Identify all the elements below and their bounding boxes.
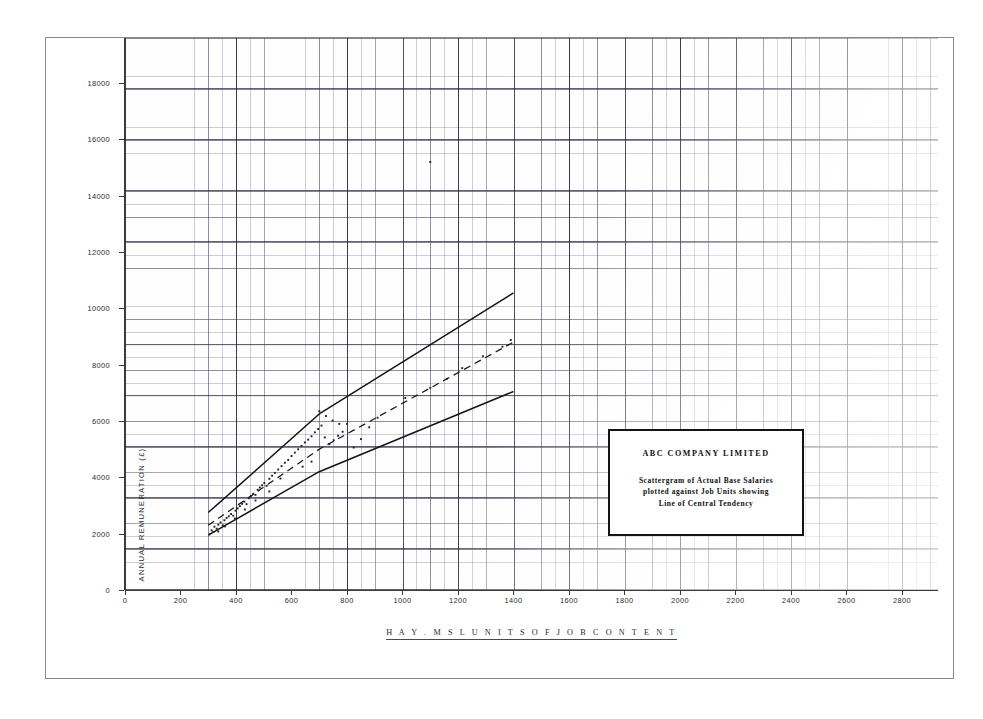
- scatter-point: [213, 526, 215, 528]
- x-tick: [513, 590, 514, 595]
- scatter-point: [284, 462, 286, 464]
- x-axis-line: [125, 590, 938, 591]
- scatter-point: [281, 465, 283, 467]
- scatter-point: [239, 505, 241, 507]
- scatter-point: [257, 489, 259, 491]
- x-tick-label: 1400: [504, 596, 522, 605]
- x-tick: [347, 590, 348, 595]
- scatter-point: [230, 513, 232, 515]
- x-tick-label: 400: [229, 596, 243, 605]
- scatter-point: [333, 439, 335, 441]
- scatter-point: [318, 410, 320, 412]
- chart-page: 0200400600800100012001400160018002000220…: [0, 0, 983, 719]
- x-tick-label: 1200: [449, 596, 467, 605]
- scatter-point: [228, 515, 230, 517]
- y-tick: [119, 590, 124, 591]
- scatter-point: [338, 423, 340, 425]
- plot-wrapper: 0200400600800100012001400160018002000220…: [0, 0, 983, 719]
- y-tick: [119, 139, 124, 140]
- scatter-point: [268, 491, 270, 493]
- scatter-point: [266, 485, 268, 487]
- scatter-point: [216, 528, 218, 530]
- scatter-point: [291, 455, 293, 457]
- scatter-point: [446, 378, 448, 380]
- scatter-point: [302, 466, 304, 468]
- scatter-points: [209, 161, 512, 535]
- scatter-point: [224, 525, 226, 527]
- series-line-lower-limit-line: [208, 391, 513, 535]
- scatter-point: [250, 495, 252, 497]
- scatter-point: [241, 503, 243, 505]
- scatter-point: [271, 475, 273, 477]
- x-axis-title-text: H A Y . M S L U N I T S O F J O B C O N …: [386, 628, 677, 640]
- y-axis-line: [124, 38, 125, 590]
- scatter-point: [222, 524, 224, 526]
- annotation-box-title: ABC COMPANY LIMITED: [643, 449, 770, 458]
- scatter-point: [235, 510, 237, 512]
- series-line-upper-limit-line: [208, 293, 513, 513]
- x-tick-label: 200: [174, 596, 188, 605]
- y-tick: [119, 421, 124, 422]
- x-tick-label: 2000: [671, 596, 689, 605]
- scatter-point: [510, 339, 512, 341]
- x-tick: [458, 590, 459, 595]
- scatter-point: [279, 478, 281, 480]
- scatter-point: [255, 494, 257, 496]
- scatter-point: [317, 428, 319, 430]
- scatter-point: [332, 420, 334, 422]
- annotation-box: ABC COMPANY LIMITED Scattergram of Actua…: [608, 429, 804, 536]
- x-tick: [402, 590, 403, 595]
- y-tick-label: 18000: [87, 79, 110, 88]
- x-tick-label: 2400: [782, 596, 800, 605]
- scatter-point: [353, 447, 355, 449]
- scatter-point: [501, 346, 503, 348]
- scatter-point: [274, 472, 276, 474]
- x-tick-label: 600: [285, 596, 299, 605]
- y-tick-label: 16000: [87, 135, 110, 144]
- scatter-point: [246, 503, 248, 505]
- scatter-point: [304, 442, 306, 444]
- scatter-point: [307, 439, 309, 441]
- scatter-point: [324, 436, 326, 438]
- annotation-box-line-3: Line of Central Tendency: [659, 498, 754, 509]
- y-tick-label: 4000: [92, 473, 110, 482]
- x-tick-label: 800: [340, 596, 354, 605]
- scatter-point: [223, 519, 225, 521]
- y-tick: [119, 196, 124, 197]
- x-tick: [236, 590, 237, 595]
- x-tick: [680, 590, 681, 595]
- scatter-point: [217, 524, 219, 526]
- scatter-point: [243, 501, 245, 503]
- scatter-point: [261, 484, 263, 486]
- y-axis-title: ANNUAL REMUNERATION (£): [137, 420, 146, 610]
- annotation-box-line-2: plotted against Job Units showing: [643, 486, 769, 497]
- x-tick: [902, 590, 903, 595]
- scatter-point: [325, 415, 327, 417]
- x-tick: [791, 590, 792, 595]
- scatter-point: [328, 443, 330, 445]
- x-tick: [624, 590, 625, 595]
- scatter-point: [429, 387, 431, 389]
- scatter-point: [252, 493, 254, 495]
- scatter-point: [248, 497, 250, 499]
- x-tick-label: 1800: [615, 596, 633, 605]
- x-tick-label: 1600: [560, 596, 578, 605]
- scatter-point: [212, 531, 214, 533]
- x-tick-label: 2600: [837, 596, 855, 605]
- y-tick: [119, 83, 124, 84]
- scatter-point: [287, 459, 289, 461]
- scatter-point: [346, 423, 348, 425]
- x-tick-label: 1000: [393, 596, 411, 605]
- scatter-point: [209, 533, 211, 535]
- scatter-point: [234, 518, 236, 520]
- scatter-point: [268, 478, 270, 480]
- scatter-point: [377, 417, 379, 419]
- scatter-point: [337, 435, 339, 437]
- y-axis-title-holder: ANNUAL REMUNERATION (£): [84, 250, 98, 440]
- annotation-box-line-1: Scattergram of Actual Base Salaries: [639, 475, 773, 486]
- scatter-point: [232, 515, 234, 517]
- scatter-point: [404, 397, 406, 399]
- scatter-point: [226, 517, 228, 519]
- x-tick: [180, 590, 181, 595]
- data-layer: [125, 38, 938, 590]
